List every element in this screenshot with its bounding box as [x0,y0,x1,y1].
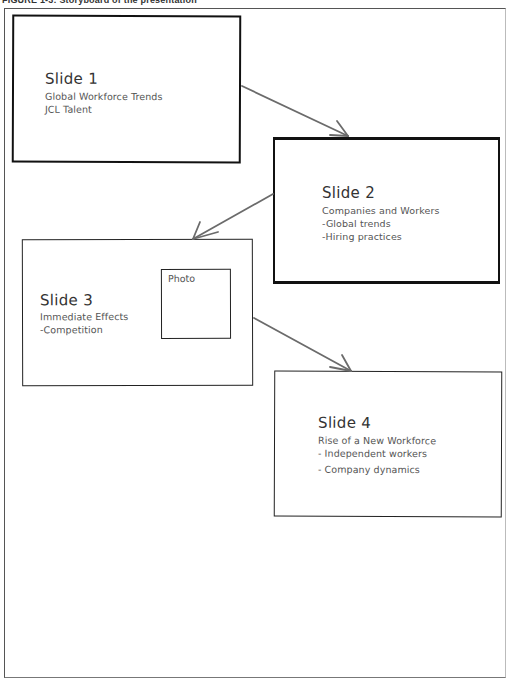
slide-4-line-1: Rise of a New Workforce [318,435,436,446]
slide-3-box: Slide 3 Immediate Effects -Competition P… [22,239,253,387]
figure-caption: FIGURE 1-3: Storyboard of the presentati… [2,0,197,5]
slide-2-line-2: -Global trends [322,218,391,229]
slide-2-box: Slide 2 Companies and Workers -Global tr… [273,137,500,284]
slide-1-line-2: JCL Talent [45,104,92,115]
slide-3-line-1: Immediate Effects [40,311,128,322]
slide-1-box: Slide 1 Global Workforce Trends JCL Tale… [12,15,242,164]
slide-1-title: Slide 1 [45,70,98,88]
slide-3-line-2: -Competition [40,324,103,335]
photo-placeholder: Photo [161,269,231,339]
slide-2-title: Slide 2 [322,184,375,202]
slide-4-box: Slide 4 Rise of a New Workforce - Indepe… [274,371,503,518]
slide-4-line-2: - Independent workers [318,448,427,459]
slide-1-line-1: Global Workforce Trends [45,91,163,102]
photo-placeholder-label: Photo [168,273,195,284]
slide-4-line-3: - Company dynamics [318,464,420,475]
slide-2-line-3: -Hiring practices [322,231,402,242]
slide-2-line-1: Companies and Workers [322,205,439,216]
slide-3-title: Slide 3 [40,291,93,309]
slide-4-title: Slide 4 [318,414,371,432]
